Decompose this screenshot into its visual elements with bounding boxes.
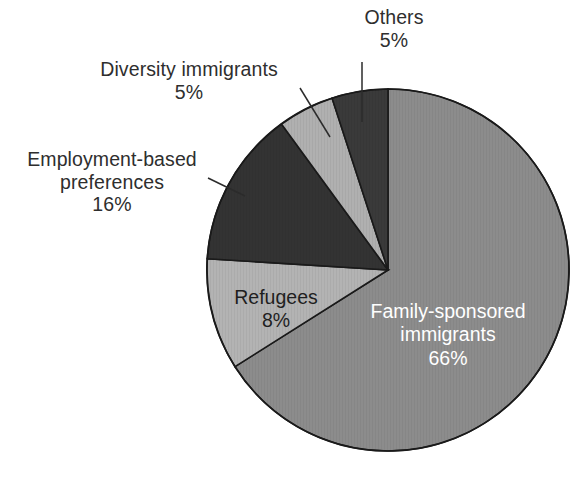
slice-label-refugees-percent: 8%: [206, 309, 346, 332]
slice-label-family-sponsored-name-line2: immigrants: [358, 323, 538, 346]
slice-label-employment-based-percent: 16%: [2, 193, 222, 216]
slice-label-diversity: Diversity immigrants 5%: [66, 58, 312, 103]
slice-label-employment-based-name-line1: Employment-based: [2, 148, 222, 171]
slice-label-employment-based: Employment-based preferences 16%: [2, 148, 222, 216]
slice-label-employment-based-name-line2: preferences: [2, 171, 222, 194]
slice-label-family-sponsored: Family-sponsored immigrants 66%: [358, 300, 538, 370]
slice-label-diversity-name: Diversity immigrants: [66, 58, 312, 81]
slice-label-refugees-name: Refugees: [206, 286, 346, 309]
slice-label-others-name: Others: [306, 6, 482, 29]
slice-label-refugees: Refugees 8%: [206, 286, 346, 333]
slice-label-family-sponsored-name-line1: Family-sponsored: [358, 300, 538, 323]
slice-label-others-percent: 5%: [306, 29, 482, 52]
slice-label-family-sponsored-percent: 66%: [358, 347, 538, 370]
pie-chart-figure: Others 5% Diversity immigrants 5% Employ…: [0, 0, 586, 479]
slice-label-diversity-percent: 5%: [66, 81, 312, 104]
slice-label-others: Others 5%: [306, 6, 482, 51]
bottom-caption-remnant: [60, 470, 530, 479]
